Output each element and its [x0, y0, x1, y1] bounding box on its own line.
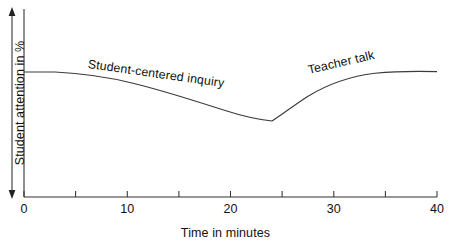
y-axis-arrow-head-up-icon — [9, 7, 16, 16]
attention-curve-figure: 0 10 20 30 40 Time in minutes Student at… — [0, 0, 451, 248]
y-axis-title: Student attention in % — [13, 23, 27, 183]
y-axis-arrow-head-down-icon — [9, 190, 16, 199]
x-tick-label-20: 20 — [223, 203, 237, 216]
x-axis-ticks — [24, 191, 437, 197]
attention-curve-line — [24, 71, 437, 121]
x-tick-label-30: 30 — [327, 203, 341, 216]
x-axis-title: Time in minutes — [0, 226, 451, 240]
x-tick-label-0: 0 — [20, 203, 27, 216]
x-tick-label-10: 10 — [120, 203, 134, 216]
x-tick-label-40: 40 — [430, 203, 444, 216]
